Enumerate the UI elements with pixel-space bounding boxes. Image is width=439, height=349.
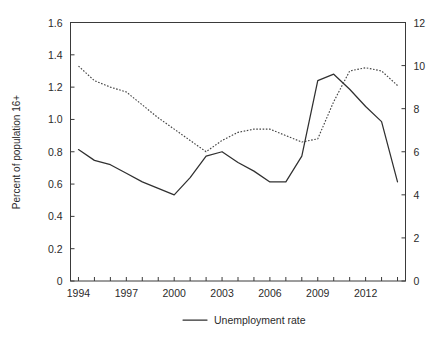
y-tick-label-left: 0.8 — [48, 146, 63, 158]
y-tick-label-left: 1.2 — [48, 81, 63, 93]
y-axis-label: Percent of population 16+ — [11, 95, 22, 209]
x-tick-label: 1997 — [115, 287, 139, 299]
y-tick-label-left: 0.6 — [48, 178, 63, 190]
y-tick-label-right: 8 — [414, 103, 420, 115]
x-tick-label: 2006 — [258, 287, 282, 299]
legend-label-unemployment-rate: Unemployment rate — [214, 314, 306, 326]
unemployment-rate-chart: 00.20.40.60.81.01.21.41.6 024681012 1994… — [0, 0, 439, 349]
y-tick-label-right: 0 — [414, 275, 420, 287]
y-tick-label-right: 6 — [414, 146, 420, 158]
x-tick-label: 2009 — [306, 287, 330, 299]
y-tick-label-left: 1.4 — [48, 49, 63, 61]
y-tick-label-left: 0.2 — [48, 243, 63, 255]
y-tick-label-left: 0 — [57, 275, 63, 287]
x-tick-label: 2012 — [354, 287, 378, 299]
x-tick-label: 2000 — [163, 287, 187, 299]
x-tick-label: 1994 — [67, 287, 91, 299]
y-tick-label-left: 1.0 — [48, 113, 63, 125]
y-tick-label-left: 1.6 — [48, 17, 63, 29]
y-tick-label-right: 12 — [414, 17, 426, 29]
y-tick-label-right: 2 — [414, 232, 420, 244]
y-tick-label-right: 4 — [414, 189, 420, 201]
y-tick-label-right: 10 — [414, 60, 426, 72]
x-tick-label: 2003 — [210, 287, 234, 299]
y-tick-label-left: 0.4 — [48, 210, 63, 222]
